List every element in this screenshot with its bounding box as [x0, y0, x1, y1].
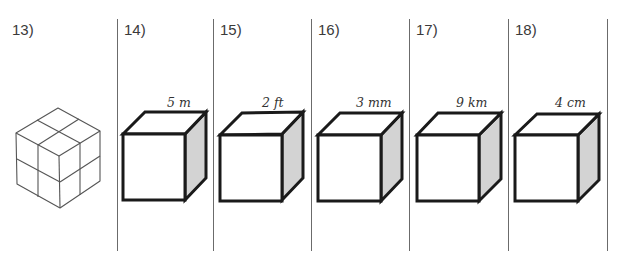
- cube-figure-17: [417, 113, 501, 201]
- isometric-cube-figure: [16, 108, 100, 208]
- cube-figure-18: [515, 114, 599, 201]
- cube-figure-14: [123, 112, 206, 200]
- cube-figure-16: [318, 113, 402, 201]
- cube-figure-15: [220, 112, 303, 201]
- figures-canvas: [0, 0, 620, 257]
